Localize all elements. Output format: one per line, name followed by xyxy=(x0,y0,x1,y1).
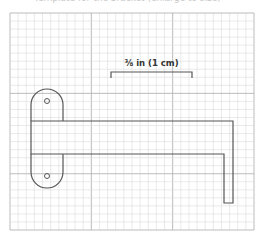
diagram-canvas: ⅜ in (1 cm) xyxy=(0,0,264,238)
clipped-caption: Template for the bracket (enlarge to siz… xyxy=(34,0,221,3)
lower-screw-hole xyxy=(45,174,50,179)
template-diagram: Template for the bracket (enlarge to siz… xyxy=(0,0,264,238)
scale-label: ⅜ in (1 cm) xyxy=(124,58,178,68)
upper-screw-hole xyxy=(45,99,50,104)
